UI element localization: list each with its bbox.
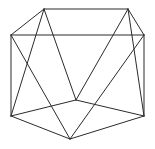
edge-rightupper-bottomctr <box>70 35 144 139</box>
edge-topleft-leftupper <box>11 9 44 35</box>
edge-leftlower-center <box>11 100 76 116</box>
wireframe-figure <box>0 0 155 149</box>
edge-rightlower-center <box>76 100 144 116</box>
edge-topleft-center <box>44 9 76 100</box>
edge-rightlower-bottomctr <box>70 116 144 139</box>
edge-topleft-leftlower <box>11 9 44 116</box>
edge-topright-center <box>76 9 128 100</box>
polyhedron-diagram <box>0 0 155 149</box>
edge-leftlower-bottomctr <box>11 116 70 139</box>
edge-group <box>11 9 144 139</box>
edge-topright-rightlower <box>128 9 144 116</box>
